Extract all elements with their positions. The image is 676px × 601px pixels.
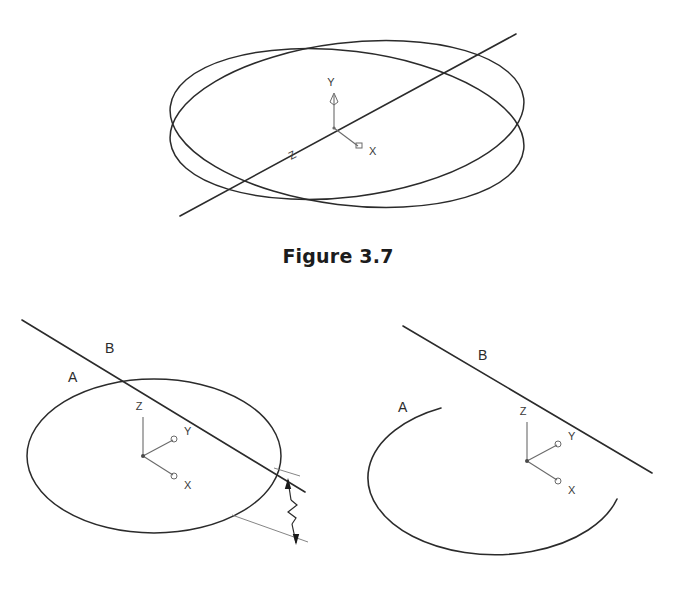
axis-label-z-right: Z	[520, 405, 527, 417]
figure-3-7-caption: Figure 3.7	[0, 245, 676, 267]
axis-x-line-left	[143, 456, 173, 475]
axis-origin-dot-right	[525, 459, 529, 463]
axis-y-line-right	[527, 445, 557, 461]
axis-x-arrowhead-left	[171, 473, 177, 479]
axis-label-y-right: Y	[568, 430, 576, 442]
label-b-right: B	[478, 347, 487, 363]
figure-3-8-right-view: Z Y X A B	[368, 326, 652, 555]
ellipse-upper	[161, 22, 533, 218]
axis-origin-dot-left	[141, 454, 145, 458]
figure-page: Y X Z Figure 3.7	[0, 0, 676, 601]
axis-label-y-left: Y	[184, 425, 192, 437]
figure-3-8-drawing: Z Y X A B	[0, 300, 676, 560]
axis-label-z: Z	[286, 148, 298, 162]
label-a-left: A	[68, 369, 78, 385]
dimension-break-zigzag	[288, 500, 297, 524]
axis-y-arrowhead-right	[555, 441, 561, 447]
axis-x-line	[334, 128, 358, 146]
axis-label-x-right: X	[568, 484, 576, 496]
axis-x-arrowhead-right	[555, 478, 561, 484]
figure-3-8: Z Y X A B	[0, 300, 676, 601]
ellipse-a-left	[27, 379, 281, 533]
figure-3-7: Y X Z Figure 3.7	[0, 0, 676, 290]
figure-3-7-drawing: Y X Z	[0, 0, 676, 245]
axis-y-line-left	[143, 440, 173, 456]
axis-label-x-left: X	[184, 479, 192, 491]
dimension-arrowhead-bottom	[293, 534, 299, 545]
axis-x-line-right	[527, 461, 557, 480]
label-a-right: A	[398, 399, 408, 415]
axis-label-z-left: Z	[136, 400, 143, 412]
axis-origin-dot	[332, 126, 335, 129]
axis-label-x: X	[369, 145, 377, 157]
line-b-left	[22, 320, 305, 492]
axis-y-arrowhead-left	[171, 436, 177, 442]
figure-3-8-left-view: Z Y X A B	[22, 320, 308, 545]
axis-label-y: Y	[327, 76, 335, 88]
dimension-break-assembly	[232, 468, 308, 545]
label-b-left: B	[105, 340, 114, 356]
axis-line-z	[180, 34, 516, 216]
